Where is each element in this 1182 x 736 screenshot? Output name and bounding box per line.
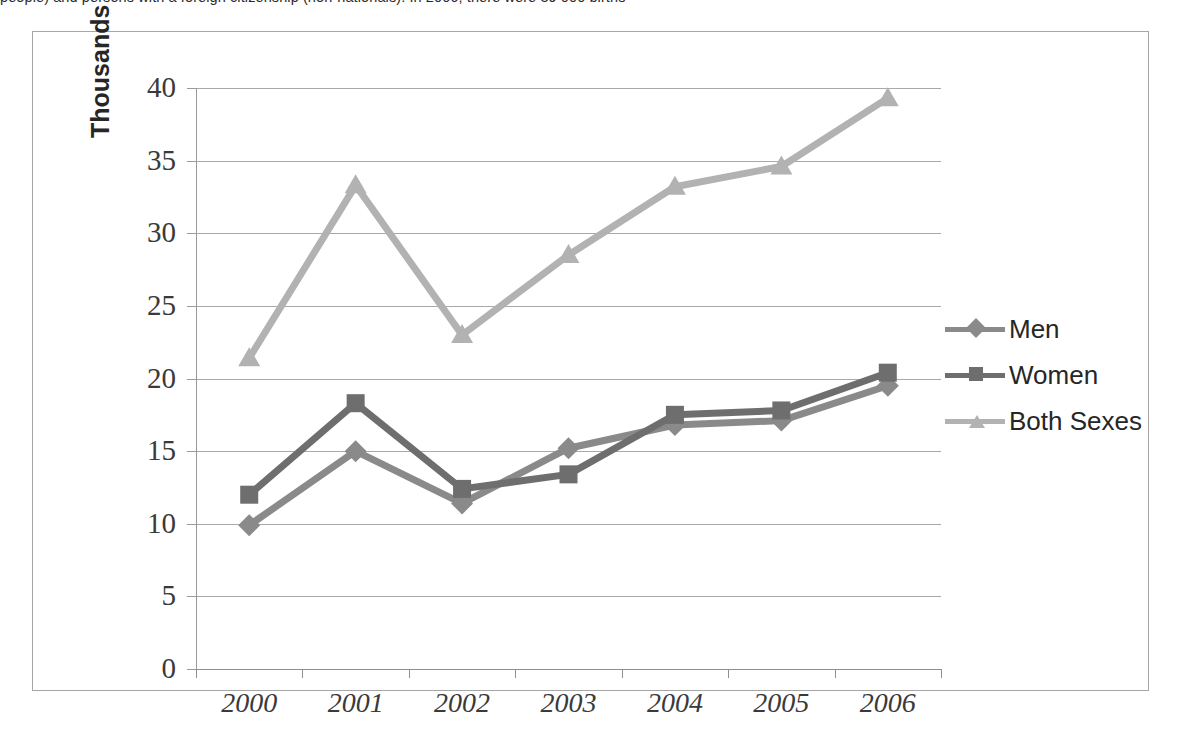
y-axis-tick	[187, 669, 196, 670]
chart-screenshot: people) and persons with a foreign citiz…	[0, 0, 1182, 736]
x-axis-tick-label: 2000	[194, 689, 304, 717]
x-axis-tick	[302, 669, 303, 678]
legend-key-square-icon	[945, 364, 1005, 386]
legend-key-triangle-icon	[945, 410, 1005, 432]
y-axis-tick	[187, 161, 196, 162]
data-point-marker	[879, 364, 897, 382]
y-axis-tick-label: 40	[116, 73, 176, 102]
y-axis-tick	[187, 524, 196, 525]
legend-marker-triangle-icon	[969, 415, 985, 428]
x-axis-tick	[515, 669, 516, 678]
series-line-both-sexes	[249, 98, 888, 358]
y-axis-title: Thousands	[86, 5, 115, 138]
y-axis-tick-label: 5	[116, 581, 176, 610]
data-point-marker	[772, 401, 790, 419]
y-axis-tick-label: 35	[116, 146, 176, 175]
x-axis-tick	[409, 669, 410, 678]
legend-item-women[interactable]: Women	[945, 352, 1155, 398]
y-axis-tick	[187, 233, 196, 234]
y-axis-tick-label: 0	[116, 654, 176, 683]
chart-legend: MenWomenBoth Sexes	[945, 306, 1155, 444]
x-axis-tick-label: 2006	[833, 689, 943, 717]
y-axis-tick	[187, 596, 196, 597]
y-axis-tick-label: 20	[116, 364, 176, 393]
series-layer	[196, 88, 941, 669]
y-axis-tick-label: 15	[116, 436, 176, 465]
data-point-marker	[877, 87, 899, 106]
legend-label: Both Sexes	[1009, 406, 1142, 437]
legend-key-diamond-icon	[945, 318, 1005, 340]
x-axis-tick	[622, 669, 623, 678]
x-axis-tick-label: 2005	[726, 689, 836, 717]
y-axis-tick-label: 10	[116, 509, 176, 538]
y-axis-tick-label: 30	[116, 218, 176, 247]
x-axis-tick	[835, 669, 836, 678]
legend-item-men[interactable]: Men	[945, 306, 1155, 352]
legend-marker-diamond-icon	[966, 318, 986, 338]
legend-label: Men	[1009, 314, 1060, 345]
x-axis-line	[196, 669, 941, 670]
x-axis-tick-label: 2003	[514, 689, 624, 717]
legend-item-both-sexes[interactable]: Both Sexes	[945, 398, 1155, 444]
x-axis-tick	[941, 669, 942, 678]
legend-label: Women	[1009, 360, 1098, 391]
data-point-marker	[240, 486, 258, 504]
clipped-body-text: people) and persons with a foreign citiz…	[0, 0, 1182, 7]
x-axis-tick-label: 2002	[407, 689, 517, 717]
data-point-marker	[560, 465, 578, 483]
data-point-marker	[345, 174, 367, 193]
y-axis-tick	[187, 451, 196, 452]
y-axis-tick-label: 25	[116, 291, 176, 320]
plot-area: Thousands 0510152025303540 2000200120022…	[196, 88, 941, 669]
x-axis-tick	[196, 669, 197, 678]
data-point-marker	[666, 406, 684, 424]
x-axis-tick-label: 2001	[301, 689, 411, 717]
legend-marker-square-icon	[969, 367, 983, 381]
y-axis-tick	[187, 379, 196, 380]
y-axis-tick	[187, 88, 196, 89]
x-axis-tick-label: 2004	[620, 689, 730, 717]
data-point-marker	[453, 480, 471, 498]
y-axis-tick	[187, 306, 196, 307]
x-axis-tick	[728, 669, 729, 678]
data-point-marker	[347, 394, 365, 412]
